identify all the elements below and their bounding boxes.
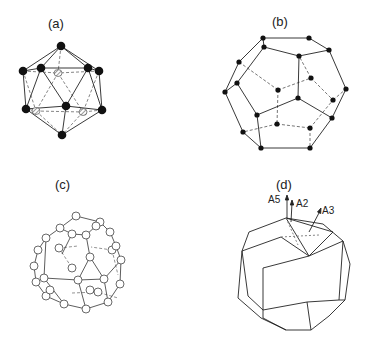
panel-a-icosahedron xyxy=(19,42,107,140)
axis-label-a5: A5 xyxy=(268,194,280,205)
hidden-vertex-icon xyxy=(32,70,87,116)
panel-b-label: (b) xyxy=(272,14,288,29)
figure-canvas xyxy=(0,0,370,339)
panel-d-label: (d) xyxy=(276,177,292,192)
vertex-icon xyxy=(19,42,107,140)
panel-a-label: (a) xyxy=(48,16,64,31)
axis-label-a3: A3 xyxy=(322,205,334,216)
panel-c-cluster xyxy=(30,212,125,313)
panel-b-dodecahedron xyxy=(222,35,348,150)
panel-c-label: (c) xyxy=(55,177,70,192)
axis-label-a2: A2 xyxy=(296,198,308,209)
